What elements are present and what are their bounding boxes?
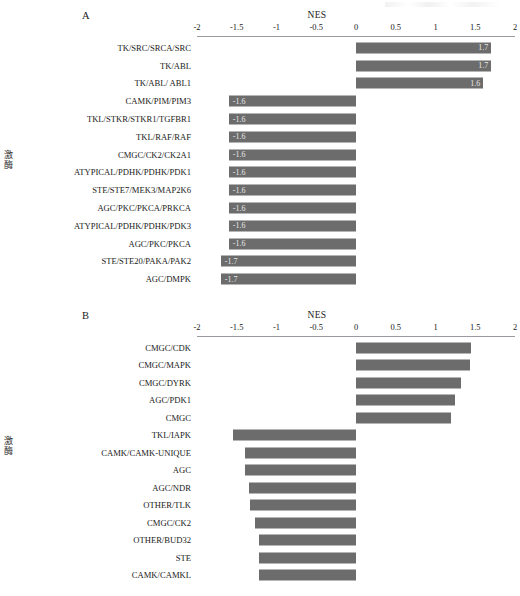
- x-tick-label: 1.5: [470, 322, 481, 332]
- bar: -1.6: [229, 185, 356, 196]
- x-tick-label: 2: [513, 322, 517, 332]
- bar-value-label: -1.6: [233, 97, 246, 106]
- bar-row: CMGC/DYRK: [197, 374, 515, 392]
- bar: [245, 447, 356, 458]
- panel-a-letter: A: [82, 10, 90, 21]
- category-label: TK/ABL/ ABL1: [134, 78, 191, 88]
- panel-b-bar-rows: CMGC/CDKCMGC/MAPKCMGC/DYRKAGC/PDK1CMGCTK…: [197, 339, 515, 584]
- category-label: CMGC/CDK: [145, 343, 191, 353]
- category-label: CMGC/CK2: [147, 518, 191, 528]
- bar: [259, 535, 356, 546]
- panel-b-plot-area: -2-1.5-1-0.500.511.52 CMGC/CDKCMGC/MAPKC…: [197, 336, 515, 584]
- x-tick-label: -1.5: [230, 322, 243, 332]
- bar: -1.6: [229, 96, 356, 107]
- x-tick-label: 0: [354, 22, 358, 32]
- bar-row: AGC/DMPK-1.7: [197, 270, 515, 288]
- bar-value-label: -1.7: [225, 257, 238, 266]
- panel-a-axis-line: [197, 36, 515, 37]
- panel-b-axis-title: NES: [287, 310, 347, 320]
- panel-a-y-axis-label: 激酶: [3, 150, 12, 170]
- category-label: OTHER/BUD32: [133, 535, 191, 545]
- category-label: CMGC/MAPK: [138, 360, 191, 370]
- bar-value-label: -1.6: [233, 204, 246, 213]
- category-label: STE/STE7/MEK3/MAP2K6: [92, 185, 191, 195]
- panel-a-axis-title: NES: [287, 10, 347, 20]
- bar-row: CAMK/CAMKL: [197, 567, 515, 585]
- bar-row: CMGC/CK2/CK2A1-1.6: [197, 146, 515, 164]
- category-label: ATYPICAL/PDHK/PDHK/PDK1: [74, 167, 191, 177]
- bar: -1.6: [229, 149, 356, 160]
- panel-a-bar-rows: TK/SRC/SRCA/SRC1.7TK/ABL1.7TK/ABL/ ABL11…: [197, 39, 515, 288]
- bar: -1.7: [221, 274, 356, 285]
- category-label: AGC/PKC/PKCA: [128, 239, 191, 249]
- category-label: AGC/PDK1: [149, 395, 191, 405]
- bar-row: TK/ABL/ ABL11.6: [197, 75, 515, 93]
- x-tick-label: -1: [273, 322, 280, 332]
- bar-row: STE/STE7/MEK3/MAP2K6-1.6: [197, 181, 515, 199]
- x-tick-label: 0: [354, 322, 358, 332]
- panel-a-plot-area: -2-1.5-1-0.500.511.52 TK/SRC/SRCA/SRC1.7…: [197, 36, 515, 288]
- bar-row: CMGC: [197, 409, 515, 427]
- bar-row: CAMK/CAMK-UNIQUE: [197, 444, 515, 462]
- bar-row: ATYPICAL/PDHK/PDHK/PDK1-1.6: [197, 164, 515, 182]
- category-label: AGC/DMPK: [146, 274, 191, 284]
- bar: [249, 482, 356, 493]
- bar: -1.6: [229, 238, 356, 249]
- bar-row: TKL/IAPK: [197, 427, 515, 445]
- panel-b: B NES 激酶 -2-1.5-1-0.500.511.52 CMGC/CDKC…: [0, 300, 520, 596]
- panel-a: A NES 激酶 -2-1.5-1-0.500.511.52 TK/SRC/SR…: [0, 0, 520, 300]
- x-tick-label: 0.5: [390, 22, 401, 32]
- x-tick-label: 1: [433, 22, 437, 32]
- bar: [356, 377, 461, 388]
- bar: [356, 360, 470, 371]
- bar-value-label: -1.6: [233, 221, 246, 230]
- bar: 1.6: [356, 78, 483, 89]
- category-label: CAMK/CAMK-UNIQUE: [101, 448, 191, 458]
- panel-b-y-axis-label: 激酶: [3, 436, 12, 456]
- bar-row: AGC/PKC/PKCA/PRKCA-1.6: [197, 199, 515, 217]
- bar: -1.6: [229, 220, 356, 231]
- bar: [259, 570, 356, 581]
- bar-row: CMGC/MAPK: [197, 357, 515, 375]
- x-tick-label: 0.5: [390, 322, 401, 332]
- bar-row: TKL/RAF/RAF-1.6: [197, 128, 515, 146]
- x-tick-label: -1.5: [230, 22, 243, 32]
- category-label: AGC/NDR: [152, 483, 191, 493]
- bar-value-label: 1.6: [470, 79, 480, 88]
- bar-row: AGC/PDK1: [197, 392, 515, 410]
- bar-value-label: -1.6: [233, 168, 246, 177]
- bar-row: TK/SRC/SRCA/SRC1.7: [197, 39, 515, 57]
- bar-value-label: 1.7: [478, 61, 488, 70]
- bar-row: TK/ABL1.7: [197, 57, 515, 75]
- category-label: ATYPICAL/PDHK/PDHK/PDK3: [74, 221, 191, 231]
- category-label: CAMK/CAMKL: [132, 570, 191, 580]
- category-label: TKL/RAF/RAF: [136, 132, 191, 142]
- bar-value-label: -1.6: [233, 132, 246, 141]
- x-tick-label: 1.5: [470, 22, 481, 32]
- category-label: STE: [176, 553, 191, 563]
- bar: [255, 517, 356, 528]
- bar-row: OTHER/TLK: [197, 497, 515, 515]
- bar: [259, 552, 356, 563]
- bar-row: ATYPICAL/PDHK/PDHK/PDK3-1.6: [197, 217, 515, 235]
- x-tick-label: -0.5: [310, 22, 323, 32]
- category-label: AGC/PKC/PKCA/PRKCA: [97, 203, 191, 213]
- bar: 1.7: [356, 60, 491, 71]
- bar-value-label: -1.6: [233, 186, 246, 195]
- category-label: TK/SRC/SRCA/SRC: [117, 43, 191, 53]
- x-tick-label: -2: [193, 322, 200, 332]
- x-tick-label: -2: [193, 22, 200, 32]
- bar: -1.6: [229, 131, 356, 142]
- category-label: TK/ABL: [160, 61, 191, 71]
- x-tick-label: 2: [513, 22, 517, 32]
- category-label: AGC: [173, 465, 191, 475]
- bar: [245, 465, 356, 476]
- bar: 1.7: [356, 42, 491, 53]
- bar-value-label: -1.6: [233, 150, 246, 159]
- bar: [250, 500, 356, 511]
- bar: [233, 430, 356, 441]
- category-label: OTHER/TLK: [143, 500, 191, 510]
- bar-value-label: -1.6: [233, 115, 246, 124]
- category-label: CAMK/PIM/PIM3: [126, 96, 191, 106]
- bar: -1.7: [221, 256, 356, 267]
